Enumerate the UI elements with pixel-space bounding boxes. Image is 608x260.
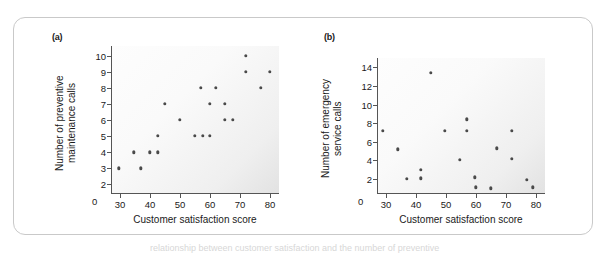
data-point (405, 177, 408, 180)
x-tick-label-a: 70 (235, 199, 246, 210)
x-tick-a (120, 194, 121, 198)
data-point (148, 150, 151, 153)
y-tick-b (373, 105, 377, 106)
data-point (419, 176, 422, 179)
data-point (465, 129, 468, 132)
y-tick-label-a: 7 (101, 98, 106, 109)
x-tick-label-b: 50 (441, 199, 452, 210)
y-tick-label-b: 12 (361, 80, 372, 91)
data-point (244, 54, 247, 57)
data-point (208, 134, 211, 137)
figure-frame: (a) 2345678910304050607080 0 Customer sa… (13, 17, 593, 235)
y-tick-a (107, 104, 111, 105)
y-axis-title-b-line2: service calls (332, 66, 344, 192)
data-point (473, 176, 476, 179)
y-tick-label-a: 2 (101, 179, 106, 190)
y-origin-label-a: 0 (92, 196, 97, 207)
data-point (117, 167, 120, 170)
data-point (178, 118, 181, 121)
y-tick-a (107, 184, 111, 185)
panel-a-label: (a) (52, 32, 62, 42)
y-tick-a (107, 120, 111, 121)
plot-area-b: 2468101214304050607080 (377, 58, 545, 194)
y-tick-b (373, 123, 377, 124)
data-point (156, 134, 159, 137)
data-point (525, 178, 528, 181)
data-point (443, 129, 446, 132)
data-point (510, 129, 513, 132)
data-point (201, 134, 204, 137)
x-axis-line-b (377, 193, 545, 194)
data-point (223, 118, 226, 121)
y-axis-title-a-line1: Number of preventive (54, 58, 66, 188)
x-tick-b (446, 194, 447, 198)
y-tick-label-a: 4 (101, 147, 106, 158)
x-tick-label-b: 80 (531, 199, 542, 210)
x-axis-line-a (111, 193, 279, 194)
y-tick-label-b: 4 (367, 155, 372, 166)
data-point (231, 118, 234, 121)
data-point (214, 86, 217, 89)
data-point (474, 186, 477, 189)
x-tick-a (270, 194, 271, 198)
caption-fragment: relationship between customer satisfacti… (150, 243, 470, 253)
x-tick-a (210, 194, 211, 198)
data-point (193, 134, 196, 137)
x-tick-b (386, 194, 387, 198)
x-tick-label-b: 40 (411, 199, 422, 210)
y-tick-b (373, 67, 377, 68)
data-point (419, 168, 422, 171)
data-point (156, 150, 159, 153)
data-point (139, 167, 142, 170)
scatter-panel-a: (a) 2345678910304050607080 0 Customer sa… (14, 18, 304, 234)
data-point (268, 70, 271, 73)
x-tick-label-a: 80 (265, 199, 276, 210)
y-axis-line-b (377, 58, 378, 194)
data-point (465, 118, 468, 121)
data-point (458, 158, 461, 161)
y-tick-a (107, 72, 111, 73)
data-point (132, 150, 135, 153)
panel-b-label: (b) (324, 32, 335, 42)
x-tick-label-a: 30 (115, 199, 126, 210)
data-point (259, 86, 262, 89)
y-tick-a (107, 56, 111, 57)
y-tick-b (373, 179, 377, 180)
data-point (396, 148, 399, 151)
y-tick-label-b: 10 (361, 99, 372, 110)
x-tick-b (476, 194, 477, 198)
x-tick-b (416, 194, 417, 198)
y-tick-label-a: 8 (101, 82, 106, 93)
x-tick-label-a: 50 (175, 199, 186, 210)
y-axis-title-a-line2: maintenance calls (66, 58, 78, 188)
x-tick-a (150, 194, 151, 198)
y-axis-title-b-line1: Number of emergency (320, 66, 332, 192)
data-point (381, 129, 384, 132)
x-tick-label-a: 40 (145, 199, 156, 210)
data-point (510, 157, 513, 160)
data-point (531, 186, 534, 189)
plot-area-a: 2345678910304050607080 (111, 46, 279, 194)
x-tick-b (506, 194, 507, 198)
y-axis-line-a (111, 46, 112, 194)
data-point (244, 70, 247, 73)
x-tick-a (240, 194, 241, 198)
data-point (495, 147, 498, 150)
x-tick-label-a: 60 (205, 199, 216, 210)
y-tick-b (373, 160, 377, 161)
y-tick-a (107, 136, 111, 137)
x-axis-title-a: Customer satisfaction score (133, 214, 256, 225)
y-tick-label-b: 6 (367, 136, 372, 147)
data-point (163, 102, 166, 105)
y-tick-label-b: 2 (367, 174, 372, 185)
y-tick-label-a: 3 (101, 163, 106, 174)
x-tick-b (536, 194, 537, 198)
y-axis-title-a: Number of preventive maintenance calls (54, 58, 77, 188)
x-axis-title-b: Customer satisfaction score (399, 214, 522, 225)
y-origin-label-b: 0 (358, 196, 363, 207)
y-tick-b (373, 142, 377, 143)
data-point (429, 71, 432, 74)
data-point (208, 102, 211, 105)
x-tick-label-b: 30 (381, 199, 392, 210)
x-tick-a (180, 194, 181, 198)
